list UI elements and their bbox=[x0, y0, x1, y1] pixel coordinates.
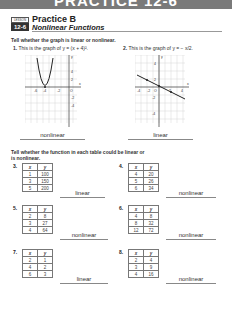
problem-4-number: 4. bbox=[119, 163, 123, 169]
cell: 3 bbox=[38, 271, 53, 278]
svg-text:4: 4 bbox=[181, 89, 183, 93]
svg-text:-4: -4 bbox=[71, 104, 74, 108]
svg-text:2: 2 bbox=[169, 89, 171, 93]
header-x: x bbox=[129, 250, 144, 257]
svg-text:-4: -4 bbox=[43, 89, 46, 93]
problem-7-answer[interactable]: linear bbox=[60, 275, 108, 284]
cell: 4 bbox=[144, 257, 159, 264]
problem-8-answer[interactable]: nonlinear bbox=[166, 275, 216, 284]
problem-3-number: 3. bbox=[13, 163, 17, 169]
cell: 32 bbox=[144, 220, 159, 227]
cell: 4 bbox=[23, 264, 38, 271]
cell: 8 bbox=[144, 213, 159, 220]
header-y: y bbox=[38, 206, 53, 213]
header-y: y bbox=[38, 164, 53, 171]
cell: 2 bbox=[38, 264, 53, 271]
line-graph: -4-2O24 42-2-4 yx bbox=[135, 55, 195, 130]
cell: 2 bbox=[23, 257, 38, 264]
problem-prompt: This is the graph of y = − x/2. bbox=[128, 45, 192, 51]
svg-text:-2: -2 bbox=[147, 89, 150, 93]
cell: 1 bbox=[38, 257, 53, 264]
cell: 100 bbox=[38, 171, 53, 178]
problem-3-table: xy 1100 3150 5200 bbox=[22, 163, 53, 192]
cell: 200 bbox=[38, 185, 53, 192]
problem-4-table: xy 420 526 634 bbox=[128, 163, 159, 192]
svg-text:4: 4 bbox=[71, 70, 73, 74]
problem-1-answer[interactable]: nonlinear bbox=[20, 131, 85, 140]
cell: 3 bbox=[129, 264, 144, 271]
problem-number: 1. bbox=[13, 45, 17, 51]
svg-text:-6: -6 bbox=[34, 89, 37, 93]
problem-7-table: xy 21 42 63 bbox=[22, 249, 53, 278]
problem-4-answer[interactable]: nonlinear bbox=[166, 189, 216, 198]
svg-text:O: O bbox=[70, 89, 73, 93]
cell: 3 bbox=[23, 178, 38, 185]
cell: 4 bbox=[129, 271, 144, 278]
lesson-number: 12-6 bbox=[11, 23, 29, 31]
svg-text:-2: -2 bbox=[57, 89, 60, 93]
cell: 4 bbox=[129, 171, 144, 178]
problem-6-answer[interactable]: nonlinear bbox=[166, 231, 216, 240]
header-x: x bbox=[23, 250, 38, 257]
svg-text:y: y bbox=[161, 55, 163, 59]
cell: 26 bbox=[144, 178, 159, 185]
cell: 5 bbox=[23, 185, 38, 192]
section2-instruction-line2: is nonlinear. bbox=[11, 155, 40, 161]
problem-number: 2. bbox=[123, 45, 127, 51]
cell: 12 bbox=[129, 227, 144, 234]
cell: 2 bbox=[129, 257, 144, 264]
parabola-graph: -6-4-2O 42-2-4 yx bbox=[25, 55, 85, 130]
header-x: x bbox=[23, 206, 38, 213]
problem-1-text: 1. This is the graph of y = (x + 4)². bbox=[13, 45, 88, 51]
problem-6-number: 6. bbox=[119, 205, 123, 211]
problem-5-table: xy 28 327 464 bbox=[22, 205, 53, 234]
cell: 3 bbox=[23, 220, 38, 227]
header-y: y bbox=[144, 250, 159, 257]
section1-instruction: Tell whether the graph is linear or nonl… bbox=[11, 37, 116, 43]
header-x: x bbox=[129, 164, 144, 171]
problem-6-table: xy 48 832 1272 bbox=[128, 205, 159, 234]
problem-2-answer[interactable]: linear bbox=[128, 131, 193, 140]
cell: 2 bbox=[23, 213, 38, 220]
svg-text:2: 2 bbox=[154, 78, 156, 82]
svg-text:y: y bbox=[71, 55, 73, 59]
problem-7-number: 7. bbox=[13, 249, 17, 255]
header-x: x bbox=[129, 206, 144, 213]
cell: 34 bbox=[144, 185, 159, 192]
cell: 64 bbox=[38, 227, 53, 234]
problem-2-text: 2. This is the graph of y = − x/2. bbox=[123, 45, 193, 51]
cell: 5 bbox=[129, 178, 144, 185]
svg-text:-2: -2 bbox=[152, 96, 155, 100]
svg-text:-4: -4 bbox=[137, 89, 140, 93]
cell: 8 bbox=[129, 220, 144, 227]
cell: 150 bbox=[38, 178, 53, 185]
problem-5-number: 5. bbox=[13, 205, 17, 211]
problem-8-table: xy 24 39 416 bbox=[128, 249, 159, 278]
problem-8-number: 8. bbox=[119, 249, 123, 255]
svg-text:2: 2 bbox=[71, 78, 73, 82]
problem-prompt: This is the graph of y = (x + 4)². bbox=[18, 45, 87, 51]
cell: 4 bbox=[23, 227, 38, 234]
cell: 1 bbox=[23, 171, 38, 178]
cell: 72 bbox=[144, 227, 159, 234]
banner-title: PRACTICE 12-6 bbox=[0, 0, 232, 9]
cell: 4 bbox=[129, 213, 144, 220]
cell: 16 bbox=[144, 271, 159, 278]
problem-5-answer[interactable]: nonlinear bbox=[60, 231, 108, 240]
page-banner: PRACTICE 12-6 bbox=[0, 0, 232, 9]
svg-text:O: O bbox=[154, 89, 157, 93]
svg-text:-2: -2 bbox=[71, 96, 74, 100]
svg-text:x: x bbox=[79, 82, 81, 86]
cell: 20 bbox=[144, 171, 159, 178]
cell: 27 bbox=[38, 220, 53, 227]
svg-text:4: 4 bbox=[154, 62, 156, 66]
header-divider bbox=[32, 31, 222, 32]
header-y: y bbox=[144, 164, 159, 171]
svg-text:x: x bbox=[187, 82, 189, 86]
header-y: y bbox=[38, 250, 53, 257]
problem-3-answer[interactable]: linear bbox=[60, 189, 105, 198]
header-x: x bbox=[23, 164, 38, 171]
cell: 8 bbox=[38, 213, 53, 220]
cell: 9 bbox=[144, 264, 159, 271]
cell: 6 bbox=[129, 185, 144, 192]
